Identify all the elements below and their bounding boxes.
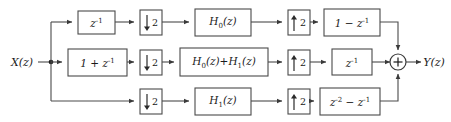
middle-upsampler-label: 2 <box>300 58 306 68</box>
bottom-upsampler-label: 2 <box>300 97 306 107</box>
top-downsampler-label: 2 <box>152 18 158 28</box>
output-adder <box>390 54 421 70</box>
middle-downsampler-label: 2 <box>152 58 158 68</box>
output-label: Y(z) <box>423 57 445 68</box>
middle-analysis-filter-label: H0(z)+H1(z) <box>192 55 256 69</box>
top-upsampler-label: 2 <box>300 18 306 28</box>
middle-comb-filter-label: 1 + z-1 <box>80 57 115 68</box>
top-synthesis-filter-label: 1 − z-1 <box>335 17 370 28</box>
top-branch-wires <box>78 9 398 50</box>
block-diagram: X(z) Y(z) z-1 2 H0(z) 2 1 − z-1 1 + z-1 … <box>0 0 451 122</box>
bottom-analysis-filter-label: H1(z) <box>209 94 236 108</box>
middle-delay-label: z-1 <box>346 57 358 68</box>
top-delay-label: z-1 <box>90 17 102 28</box>
bottom-synthesis-filter-label: z-2 − z-1 <box>330 96 370 107</box>
bottom-downsampler-label: 2 <box>152 97 158 107</box>
top-analysis-filter-label: H0(z) <box>209 15 236 29</box>
bottom-branch-wires <box>140 74 398 115</box>
input-label: X(z) <box>11 57 33 68</box>
